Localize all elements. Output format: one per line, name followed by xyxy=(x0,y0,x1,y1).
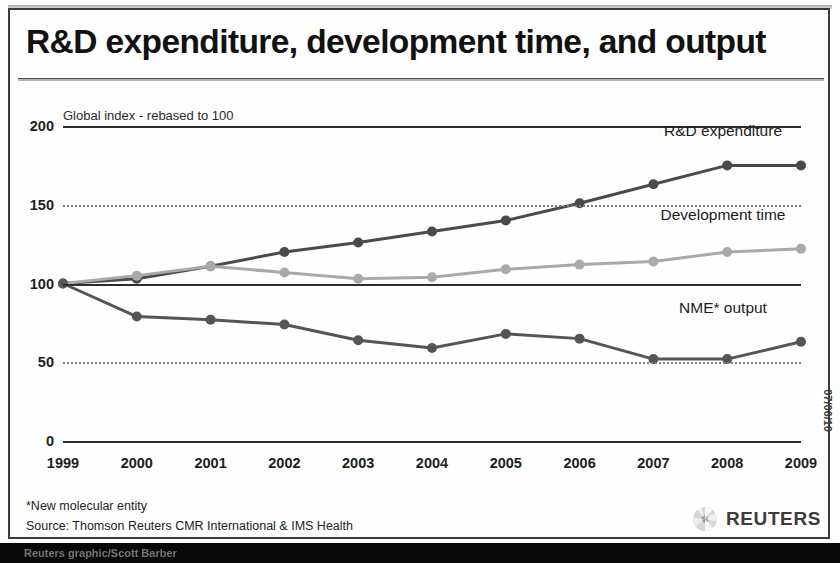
graphic-page: R&D expenditure, development time, and o… xyxy=(0,0,840,563)
data-point xyxy=(206,315,216,325)
data-point xyxy=(353,274,363,284)
data-point xyxy=(132,271,142,281)
data-point xyxy=(501,329,511,339)
series-line-0 xyxy=(63,165,801,283)
x-axis-label-2007: 2007 xyxy=(637,455,669,471)
data-point xyxy=(722,247,732,257)
page-title: R&D expenditure, development time, and o… xyxy=(26,22,816,62)
x-axis-label-1999: 1999 xyxy=(47,455,79,471)
reuters-dots-icon xyxy=(692,506,718,532)
reuters-logo: REUTERS xyxy=(692,506,821,532)
y-axis-label-50: 50 xyxy=(38,354,54,370)
x-axis-label-2009: 2009 xyxy=(785,455,817,471)
data-point xyxy=(796,244,806,254)
data-point xyxy=(427,343,437,353)
gridline-0 xyxy=(63,441,801,443)
y-axis-label-150: 150 xyxy=(30,197,54,213)
y-axis-label-200: 200 xyxy=(30,118,54,134)
data-point xyxy=(501,216,511,226)
data-point xyxy=(722,160,732,170)
x-axis-label-2004: 2004 xyxy=(416,455,448,471)
reuters-wordmark: REUTERS xyxy=(726,508,821,530)
x-axis-label-2000: 2000 xyxy=(121,455,153,471)
x-axis-label-2006: 2006 xyxy=(563,455,595,471)
data-point xyxy=(279,267,289,277)
footnote-source: Source: Thomson Reuters CMR Internationa… xyxy=(26,519,353,533)
data-point xyxy=(279,319,289,329)
x-axis-label-2003: 2003 xyxy=(342,455,374,471)
data-point xyxy=(501,264,511,274)
chart-subtitle: Global index - rebased to 100 xyxy=(63,108,234,123)
gridline-100 xyxy=(63,284,801,286)
data-point xyxy=(796,337,806,347)
data-point xyxy=(427,227,437,237)
y-axis-label-0: 0 xyxy=(46,433,54,449)
chart-area: Global index - rebased to 100 0501001502… xyxy=(18,96,824,481)
data-point xyxy=(132,312,142,322)
data-point xyxy=(427,272,437,282)
data-point xyxy=(206,261,216,271)
x-axis-label-2002: 2002 xyxy=(268,455,300,471)
bottom-credit: Reuters graphic/Scott Barber xyxy=(24,547,177,559)
data-point xyxy=(575,260,585,270)
bottom-bar: Reuters graphic/Scott Barber xyxy=(0,543,840,563)
date-stamp: 07/06/10 xyxy=(822,389,834,432)
data-point xyxy=(279,247,289,257)
title-divider xyxy=(18,78,824,81)
y-axis-label-100: 100 xyxy=(30,276,54,292)
x-axis-label-2005: 2005 xyxy=(490,455,522,471)
gridline-50 xyxy=(63,362,801,364)
plot-area: 0501001502001999200020012002200320042005… xyxy=(63,126,801,441)
data-point xyxy=(353,335,363,345)
footnote-definition: *New molecular entity xyxy=(26,499,147,513)
x-axis-label-2001: 2001 xyxy=(194,455,226,471)
series-label-nme: NME* output xyxy=(679,299,767,317)
data-point xyxy=(575,334,585,344)
series-label-devtime: Development time xyxy=(661,206,786,224)
series-label-rnd: R&D expenditure xyxy=(664,122,782,140)
x-axis-label-2008: 2008 xyxy=(711,455,743,471)
data-point xyxy=(648,179,658,189)
data-point xyxy=(796,160,806,170)
data-point xyxy=(648,256,658,266)
data-point xyxy=(353,238,363,248)
